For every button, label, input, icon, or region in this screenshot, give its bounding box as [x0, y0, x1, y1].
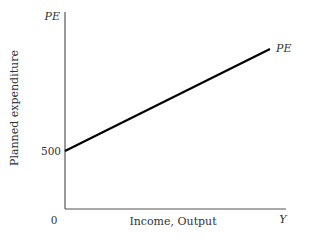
intercept-label: 500: [41, 145, 61, 157]
origin-label: 0: [51, 214, 58, 226]
x-axis-symbol: Y: [279, 213, 288, 226]
chart-canvas: PE Planned expenditure 500 0 Income, Out…: [0, 0, 318, 239]
pe-line: [65, 49, 270, 151]
y-axis-symbol: PE: [44, 10, 60, 23]
pe-line-label: PE: [275, 42, 291, 55]
x-axis-title: Income, Output: [129, 215, 217, 228]
y-axis-title: Planned expenditure: [8, 50, 21, 166]
